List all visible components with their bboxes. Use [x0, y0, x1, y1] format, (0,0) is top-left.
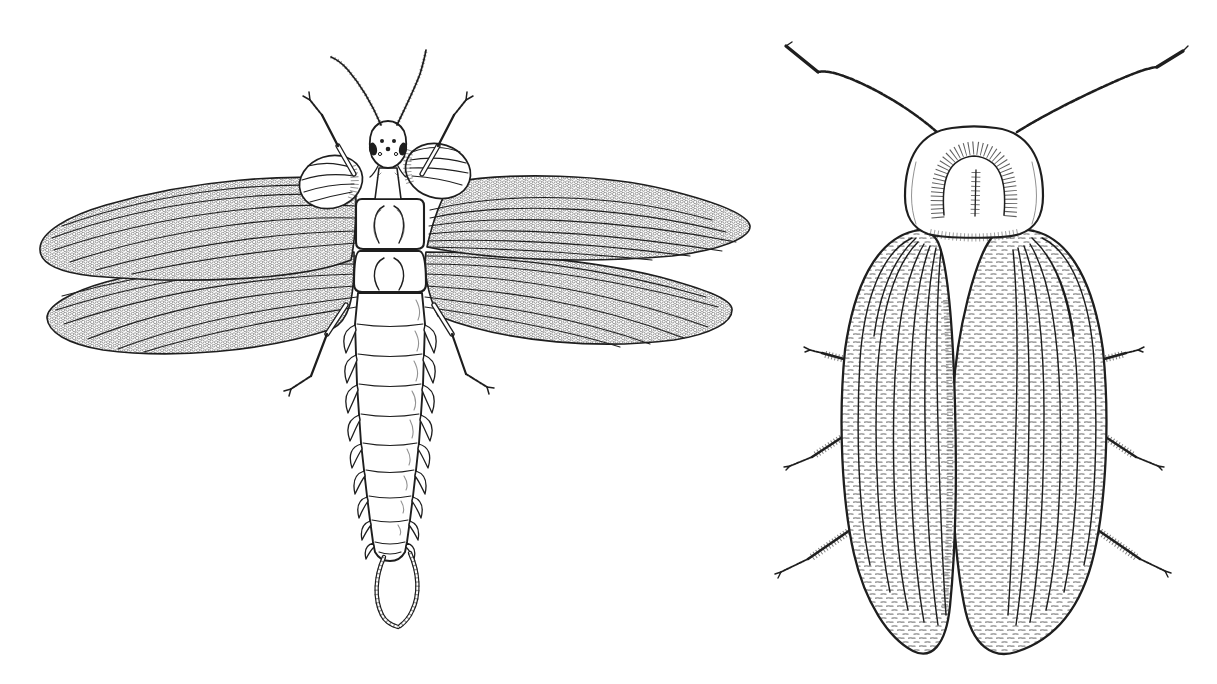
roach-right-leg-hind: [1092, 526, 1171, 577]
left-antenna: [331, 57, 381, 125]
abdomen: [344, 293, 436, 561]
fossil-cockroach-figure: [775, 42, 1188, 654]
cerci-fork: [377, 553, 418, 627]
palaeodictyopteran-figure: [40, 50, 750, 627]
right-hindwing: [425, 252, 732, 347]
roach-right-leg-mid: [1098, 432, 1164, 470]
pronotum: [905, 127, 1043, 238]
roach-left-leg-hind: [775, 526, 856, 578]
right-antenna: [397, 50, 426, 125]
illustration-plate: [0, 0, 1217, 684]
roach-left-antenna: [786, 42, 937, 132]
roach-left-leg-mid: [784, 432, 850, 470]
head: [368, 121, 409, 177]
insect-plate-svg: [0, 0, 1217, 684]
right-forewing: [427, 176, 750, 260]
roach-right-antenna: [1017, 46, 1188, 132]
abdomen-outline: [355, 293, 425, 561]
roach-right-wing: [952, 229, 1107, 654]
thorax: [354, 199, 426, 292]
roach-left-wing: [842, 230, 956, 654]
prothorax: [375, 168, 401, 199]
